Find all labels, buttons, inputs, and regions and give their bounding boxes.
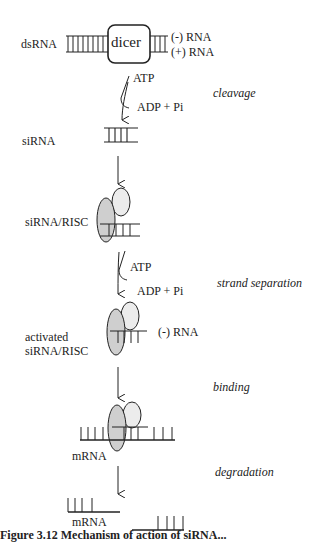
label-adp-pi-2: ADP + Pi <box>137 284 183 298</box>
label-sirna: siRNA <box>22 134 55 148</box>
mrna-fragment-left <box>68 498 120 512</box>
mrna-bound-complex <box>80 402 175 451</box>
label-activated-line2: siRNA/RISC <box>25 344 88 358</box>
step-degradation: degradation <box>215 465 274 479</box>
label-dicer: dicer <box>111 35 141 49</box>
label-atp-1: ATP <box>133 71 154 85</box>
figure-caption: Figure 3.12 Mechanism of action of siRNA… <box>0 528 226 543</box>
activated-risc-complex <box>107 302 147 355</box>
label-activated-line1: activated <box>25 330 68 344</box>
strand-separation-arrow <box>118 251 127 294</box>
step-strand-separation: strand separation <box>217 276 302 290</box>
label-dsrna: dsRNA <box>21 37 57 51</box>
label-adp-pi-1: ADP + Pi <box>137 100 183 114</box>
label-sirna-risc: siRNA/RISC <box>25 215 88 229</box>
label-mrna-bound: mRNA <box>72 449 107 463</box>
step-cleavage: cleavage <box>213 86 256 100</box>
label-mrna-degraded: mRNA <box>72 515 107 529</box>
label-atp-2: ATP <box>130 260 151 274</box>
cleavage-arrow <box>121 76 129 120</box>
label-minus-rna-mid: (-) RNA <box>158 325 198 339</box>
sirna-risc-complex <box>97 188 140 242</box>
step-binding: binding <box>213 380 250 394</box>
label-minus-rna-top: (-) RNA <box>171 30 211 44</box>
label-plus-rna-top: (+) RNA <box>171 45 214 59</box>
sirna-duplex <box>104 128 138 142</box>
